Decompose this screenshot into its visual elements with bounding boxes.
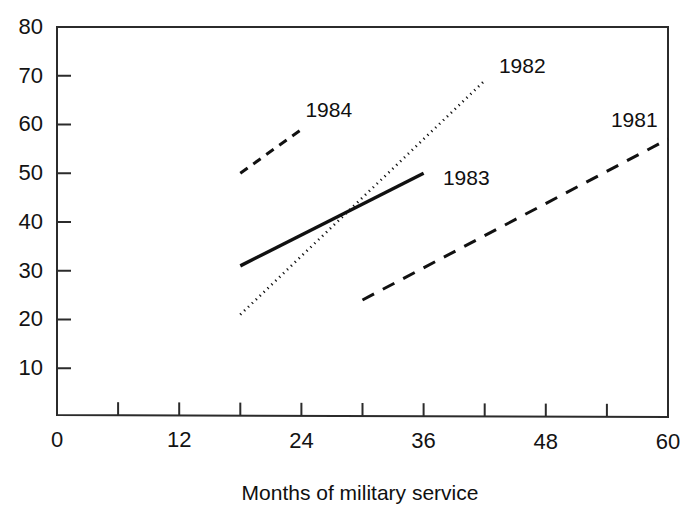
y-tick-label-20: 20 xyxy=(19,306,43,331)
series-label-1983: 1983 xyxy=(443,166,490,189)
series-label-1982: 1982 xyxy=(499,54,546,77)
x-tick-label-0: 0 xyxy=(51,427,63,452)
line-chart: 1020304050607080 01224364860 19841983198… xyxy=(0,0,687,512)
x-tick-label-36: 36 xyxy=(411,428,435,453)
x-axis-title: Months of military service xyxy=(242,481,479,504)
y-tick-label-40: 40 xyxy=(19,209,43,234)
y-tick-label-30: 30 xyxy=(19,258,43,283)
y-tick-label-10: 10 xyxy=(19,355,43,380)
chart-background xyxy=(0,0,687,512)
y-tick-label-50: 50 xyxy=(19,160,43,185)
chart-figure: 1020304050607080 01224364860 19841983198… xyxy=(0,0,687,512)
x-tick-label-12: 12 xyxy=(167,427,191,452)
series-label-1984: 1984 xyxy=(305,98,352,121)
y-tick-label-80: 80 xyxy=(19,14,43,39)
x-tick-label-24: 24 xyxy=(289,428,313,453)
x-tick-label-48: 48 xyxy=(534,429,558,454)
y-tick-label-70: 70 xyxy=(19,63,43,88)
series-label-1981: 1981 xyxy=(611,108,658,131)
y-tick-label-60: 60 xyxy=(19,111,43,136)
x-tick-label-60: 60 xyxy=(656,429,680,454)
